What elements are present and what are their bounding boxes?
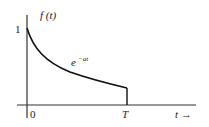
y-axis-label: f (t) [40,9,57,22]
x-tick-zero: 0 [30,108,36,120]
x-tick-T: T [122,108,129,120]
y-tick-one: 1 [15,23,21,35]
decay-curve [27,28,127,88]
curve-label-base: e [71,56,76,68]
x-axis-label: t [175,108,179,120]
curve-label-exponent: −at [78,55,89,63]
arrow-right-icon: → [181,108,192,120]
exponential-decay-chart: f (t) 1 e −at 0 T t → [0,0,209,127]
